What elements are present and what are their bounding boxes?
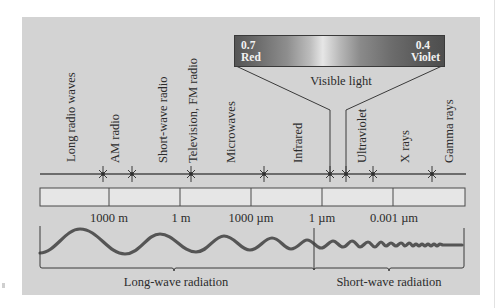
band-label-microwaves: Microwaves [224,101,238,163]
wave-curve [40,229,462,254]
band-label-am-radio: AM radio [108,114,122,163]
visible-light-label: Visible light [310,74,371,89]
long-wave-radiation-label: Long-wave radiation [124,275,228,290]
visible-light-spectrum: 0.7 Red 0.4 Violet [234,35,445,67]
red-label: Red [241,51,261,63]
band-label-ultraviolet: Ultraviolet [355,109,369,163]
violet-wavelength-value: 0.4 [416,39,430,51]
red-wavelength-value: 0.7 [241,39,255,51]
band-label-x-rays: X rays [398,130,412,163]
scale-label-1000um: 1000 µm [228,211,273,226]
short-wave-radiation-label: Short-wave radiation [336,275,441,290]
band-label-television-fm-radio: Television, FM radio [186,58,200,163]
band-label-gamma-rays: Gamma rays [442,99,456,163]
band-label-long-radio-waves: Long radio waves [64,72,78,162]
band-label-short-wave-radio: Short-wave radio [156,77,170,163]
scale-label-1um: 1 µm [309,211,335,226]
band-label-infrared: Infrared [291,123,305,163]
violet-label: Violet [411,51,440,63]
scale-label-0001um: 0.001 µm [370,211,418,226]
scale-label-1m: 1 m [171,211,190,226]
scale-label-1000m: 1000 m [90,211,128,226]
wavelength-scale-bar [40,188,465,206]
